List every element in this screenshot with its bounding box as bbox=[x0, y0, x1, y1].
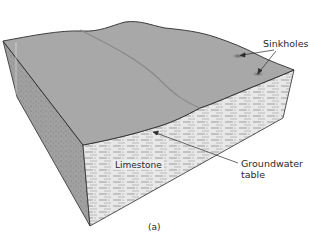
figure-caption: (a) bbox=[148, 222, 161, 232]
sinkholes-label: Sinkholes bbox=[263, 39, 308, 50]
limestone-block-illustration bbox=[0, 0, 310, 245]
limestone-label: Limestone bbox=[113, 160, 164, 170]
groundwater-label-line2: table bbox=[241, 170, 303, 181]
karst-diagram: Sinkholes Limestone Groundwater table (a… bbox=[0, 0, 310, 245]
groundwater-table-label: Groundwater table bbox=[241, 159, 303, 181]
